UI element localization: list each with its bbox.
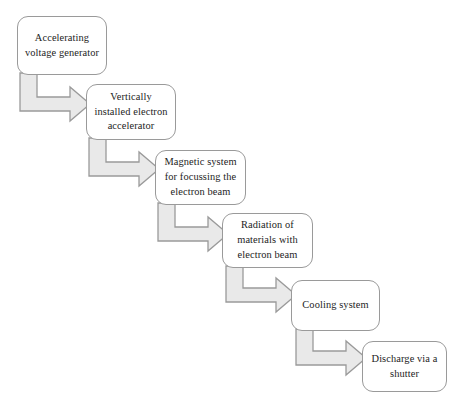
node-label: Cooling system <box>298 298 373 313</box>
node-accelerating-voltage-generator[interactable]: Accelerating voltage generator <box>17 16 107 75</box>
connector-accelerator-to-magnetic-system <box>89 138 161 188</box>
connector-radiation-to-cooling-system <box>226 266 298 314</box>
flowchart-canvas: Accelerating voltage generator Verticall… <box>0 0 462 412</box>
elbow-arrow-icon <box>296 329 368 377</box>
elbow-arrow-icon <box>158 203 230 253</box>
node-discharge-via-a-shutter[interactable]: Discharge via a shutter <box>362 341 447 392</box>
elbow-arrow-icon <box>20 73 92 123</box>
node-label: Discharge via a shutter <box>369 352 440 382</box>
connector-accelerating-to-accelerator <box>20 73 92 123</box>
node-label: Accelerating voltage generator <box>24 31 100 61</box>
node-radiation-of-materials-with-electron-beam[interactable]: Radiation of materials with electron bea… <box>222 213 313 268</box>
connector-magnetic-system-to-radiation <box>158 203 230 253</box>
node-label: Vertically installed electron accelerato… <box>93 90 169 134</box>
node-label: Radiation of materials with electron bea… <box>229 218 306 262</box>
elbow-arrow-icon <box>89 138 161 188</box>
node-magnetic-system-for-focussing-the-electron-beam[interactable]: Magnetic system for focussing the electr… <box>155 150 246 205</box>
node-label: Magnetic system for focussing the electr… <box>162 155 239 199</box>
node-vertically-installed-electron-accelerator[interactable]: Vertically installed electron accelerato… <box>86 84 176 140</box>
connector-cooling-system-to-discharge <box>296 329 368 377</box>
node-cooling-system[interactable]: Cooling system <box>291 280 380 331</box>
elbow-arrow-icon <box>226 266 298 314</box>
